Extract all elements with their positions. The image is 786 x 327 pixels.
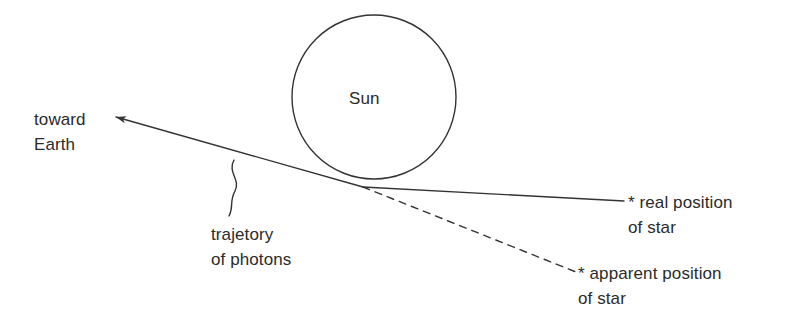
apparent-position-line1: * apparent position	[578, 264, 722, 283]
sun-label: Sun	[349, 86, 380, 111]
toward-earth-line1: toward	[34, 110, 86, 129]
toward-earth-line2: Earth	[34, 135, 75, 154]
trajectory-leader-line	[229, 160, 237, 216]
apparent-position-label: * apparent positionof star	[578, 261, 722, 311]
real-position-ray-line	[363, 187, 624, 201]
trajectory-line1: trajetory	[211, 225, 273, 244]
trajectory-label: trajetoryof photons	[211, 222, 291, 272]
real-position-line1: * real position	[628, 193, 733, 212]
real-position-line2: of star	[628, 218, 676, 237]
trajectory-line2: of photons	[211, 250, 291, 269]
real-position-label: * real positionof star	[628, 190, 733, 240]
apparent-position-line2: of star	[578, 289, 626, 308]
apparent-position-ray-line	[363, 187, 576, 272]
toward-earth-label: towardEarth	[34, 107, 86, 157]
diagram-canvas: Sun towardEarth trajetoryof photons * re…	[0, 0, 786, 327]
photon-trajectory-line	[116, 117, 363, 187]
